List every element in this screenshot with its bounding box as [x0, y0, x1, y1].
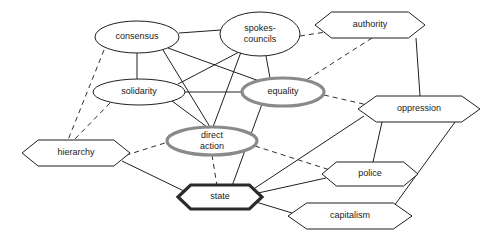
edge-direct-action-state	[212, 155, 217, 186]
edge-hierarchy-state	[122, 161, 186, 192]
node-authority[interactable]: authority	[315, 12, 425, 38]
node-label-capitalism: capitalism	[330, 210, 370, 220]
node-label-equality: equality	[267, 86, 299, 96]
edge-oppression-police	[373, 122, 382, 162]
edge-direct-action-police	[255, 146, 330, 170]
node-label-direct-action: action	[200, 141, 224, 151]
node-label-consensus: consensus	[115, 31, 159, 41]
edge-solidarity-spokes-councils	[178, 51, 241, 84]
edge-authority-equality	[300, 38, 372, 84]
node-consensus[interactable]: consensus	[95, 21, 179, 53]
edge-consensus-spokes-councils	[179, 30, 221, 33]
edge-state-capitalism	[256, 202, 292, 213]
node-label-solidarity: solidarity	[121, 86, 157, 96]
node-police[interactable]: police	[322, 162, 418, 186]
node-hierarchy[interactable]: hierarchy	[22, 140, 130, 166]
node-label-police: police	[358, 168, 382, 178]
node-label-spokes-councils: spokes-	[244, 23, 276, 33]
concept-diagram: consensusspokes-councilsauthoritysolidar…	[0, 0, 486, 241]
node-oppression[interactable]: oppression	[358, 96, 480, 122]
node-spokes-councils[interactable]: spokes-councils	[220, 12, 300, 56]
node-direct-action[interactable]: directaction	[167, 127, 257, 155]
diagram-canvas: consensusspokes-councilsauthoritysolidar…	[0, 0, 486, 241]
node-state[interactable]: state	[178, 185, 262, 209]
nodes-layer: consensusspokes-councilsauthoritysolidar…	[22, 12, 480, 229]
node-capitalism[interactable]: capitalism	[288, 203, 412, 229]
node-equality[interactable]: equality	[242, 78, 324, 106]
edge-spokes-councils-equality	[266, 56, 270, 78]
node-label-oppression: oppression	[397, 103, 441, 113]
node-label-authority: authority	[353, 19, 388, 29]
node-label-hierarchy: hierarchy	[57, 147, 95, 157]
edge-state-police	[258, 178, 326, 193]
edge-authority-oppression	[416, 38, 420, 96]
node-solidarity[interactable]: solidarity	[93, 79, 185, 105]
node-label-state: state	[210, 191, 230, 201]
node-label-spokes-councils: councils	[244, 34, 277, 44]
node-label-direct-action: direct	[201, 130, 224, 140]
edge-solidarity-hierarchy	[74, 103, 110, 140]
